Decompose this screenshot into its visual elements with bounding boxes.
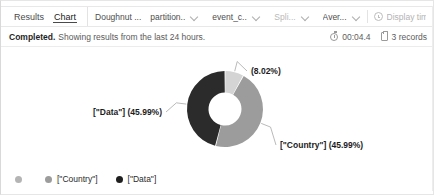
split-series-selector[interactable]: Spli...: [267, 7, 315, 26]
status-state: Completed.: [9, 32, 55, 42]
query-duration-value: 00:04.4: [342, 32, 370, 42]
legend-item-country[interactable]: ["Country"]: [45, 175, 98, 184]
records-icon: [381, 32, 388, 41]
chart-type-label: Doughnut ...: [95, 12, 141, 22]
partition-field-selector[interactable]: partition...: [143, 7, 205, 26]
doughnut-chart: (8.02%) ["Data"] (45.99%) ["Country"] (4…: [1, 47, 434, 164]
legend-label-data: ["Data"]: [128, 175, 157, 184]
legend-item-other[interactable]: [15, 176, 27, 183]
chevron-down-icon: [301, 12, 310, 21]
chevron-down-icon: [190, 12, 199, 21]
doughnut-slices: [187, 71, 263, 147]
aggregation-selector[interactable]: Aver...: [316, 7, 367, 26]
event-column-label: event_c...: [212, 12, 247, 22]
record-count-value: 3 records: [392, 32, 427, 42]
event-column-selector[interactable]: event_c...: [205, 7, 267, 26]
split-series-label: Spli...: [274, 12, 295, 22]
status-message: Completed. Showing results from the last…: [9, 32, 205, 42]
legend-color-swatch: [116, 176, 123, 183]
aggregation-label: Aver...: [323, 12, 347, 22]
timer-icon: [330, 33, 338, 41]
tab-chart-label: Chart: [54, 12, 76, 22]
display-time-label: Display time (UTC+: [387, 12, 426, 22]
tab-results[interactable]: Results: [9, 7, 49, 26]
chevron-down-icon: [352, 12, 361, 21]
slice-label-country: ["Country"] (45.99%): [280, 140, 363, 150]
chart-toolbar: Results Chart Doughnut ... partition... …: [1, 6, 434, 27]
leader-line-other: [235, 62, 247, 72]
legend-label-country: ["Country"]: [57, 175, 98, 184]
chart-config-controls: Doughnut ... partition... event_c... Spl…: [88, 7, 367, 26]
doughnut-chart-svg: (8.02%) ["Data"] (45.99%) ["Country"] (4…: [1, 47, 434, 164]
query-duration: 00:04.4: [330, 32, 370, 42]
clock-icon: [374, 12, 383, 21]
tab-results-label: Results: [14, 12, 44, 22]
record-count: 3 records: [381, 32, 427, 42]
status-detail: Showing results from the last 24 hours.: [58, 32, 205, 42]
legend-item-data[interactable]: ["Data"]: [116, 175, 157, 184]
query-result-chart-panel: Results Chart Doughnut ... partition... …: [0, 0, 434, 195]
chart-type-selector[interactable]: Doughnut ...: [88, 7, 143, 26]
result-view-tabs: Results Chart: [1, 7, 88, 26]
legend-color-swatch: [15, 176, 22, 183]
leader-line-country: [261, 123, 276, 145]
display-time-selector[interactable]: Display time (UTC+: [368, 7, 430, 26]
legend-color-swatch: [45, 176, 52, 183]
chevron-down-icon: [252, 12, 261, 21]
slice-label-data: ["Data"] (45.99%): [93, 107, 162, 117]
query-status-bar: Completed. Showing results from the last…: [1, 27, 434, 47]
tab-chart[interactable]: Chart: [49, 7, 81, 26]
slice-label-other: (8.02%): [251, 66, 281, 76]
leader-line-data: [166, 103, 186, 112]
status-metrics: 00:04.4 3 records: [330, 32, 427, 42]
panel-right-edge: [432, 6, 433, 191]
partition-field-label: partition...: [150, 12, 185, 22]
chart-legend: ["Country"] ["Data"]: [1, 164, 434, 195]
